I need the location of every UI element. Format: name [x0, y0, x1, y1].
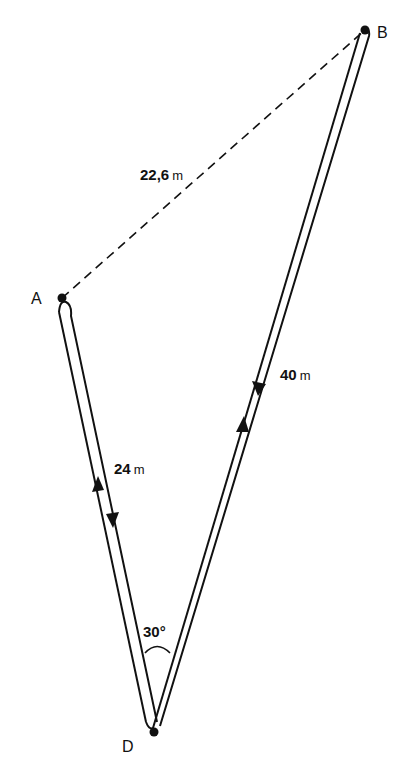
distance-unit-ab: m [172, 168, 183, 183]
distance-value-ab: 22,6 [140, 166, 169, 183]
path-turn-d [146, 722, 153, 728]
distance-value-ad: 24 [114, 460, 131, 477]
point-d-marker [150, 728, 159, 737]
distance-label-ab: 22,6m [140, 166, 183, 183]
distance-label-ad: 24m [114, 460, 145, 477]
angle-arc [145, 647, 170, 654]
dashed-segment-ab [62, 30, 365, 298]
point-d-label: D [122, 738, 134, 755]
arrow-down-icon [106, 512, 119, 528]
distance-label-db: 40m [280, 366, 311, 383]
point-a-marker [58, 294, 67, 303]
distance-unit-ad: m [134, 462, 145, 477]
distance-value-db: 40 [280, 366, 297, 383]
point-b-label: B [377, 24, 388, 41]
path-segment-db [153, 28, 369, 728]
point-a-label: A [31, 290, 42, 307]
arrow-up-icon [236, 416, 249, 432]
point-b-marker [361, 26, 370, 35]
path-segment-ad [59, 302, 157, 722]
angle-label: 30° [143, 623, 166, 640]
distance-unit-db: m [300, 368, 311, 383]
diagram-canvas: A B D 24m 40m 22,6m 30° [0, 0, 405, 768]
